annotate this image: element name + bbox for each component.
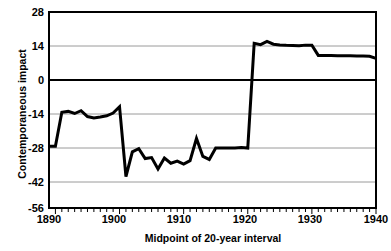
chart-container: Contemporaneous impact 28 14 0 -14 -28 -…	[0, 0, 391, 251]
x-tick-label: 1900	[94, 214, 134, 225]
y-tick-label: -14	[4, 109, 44, 120]
x-tick-label: 1940	[356, 214, 391, 225]
y-tick-label: 14	[4, 41, 44, 52]
x-tick-label: 1920	[225, 214, 265, 225]
data-series-line	[49, 41, 376, 176]
x-tick-label: 1890	[29, 214, 69, 225]
y-tick-label: 28	[4, 7, 44, 18]
x-tick-label: 1930	[290, 214, 330, 225]
y-tick-label: 0	[4, 75, 44, 86]
y-tick-label: -42	[4, 177, 44, 188]
x-axis-title: Midpoint of 20-year interval	[48, 232, 378, 244]
y-tick-label: -28	[4, 143, 44, 154]
gridlines	[49, 46, 376, 182]
plot-frame	[49, 12, 376, 208]
x-tick-label: 1910	[159, 214, 199, 225]
